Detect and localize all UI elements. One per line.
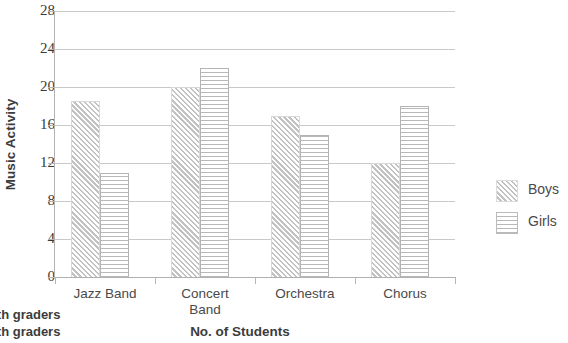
legend-label-boys: Boys [528,181,559,197]
y-tick-4 [48,239,55,240]
bar-group-jazz-band [71,11,129,277]
bar-concert-band-boys [171,87,200,277]
footnote-line-1: ixth graders [0,306,60,323]
x-category-concert-band-line2: Band [145,302,265,318]
bar-chart: Music Activity 28 24 20 16 12 8 4 0 [0,0,568,343]
y-tick-8 [48,201,55,202]
x-axis-title: No. of Students [150,324,330,339]
bar-chorus-boys [371,163,400,277]
x-category-chorus-line1: Chorus [345,286,465,302]
legend-swatch-boys-icon [496,180,518,202]
x-tick-0 [55,277,56,284]
bar-concert-band-girls [200,68,229,277]
bar-orchestra-boys [271,116,300,278]
legend-swatch-girls-icon [496,212,518,234]
legend-item-girls: Girls [496,210,566,242]
bar-chorus-girls [400,106,429,277]
y-tick-28 [48,11,55,12]
chart-legend: Boys Girls [496,178,566,242]
y-tick-12 [48,163,55,164]
y-tick-20 [48,87,55,88]
x-tick-1 [155,277,156,284]
bar-group-chorus [371,11,429,277]
footnote-block: ixth graders ixth graders [0,306,60,340]
bar-group-concert-band [171,11,229,277]
footnote-line-2: ixth graders [0,323,60,340]
x-category-chorus: Chorus [345,286,465,302]
bar-orchestra-girls [300,135,329,278]
legend-item-boys: Boys [496,178,566,210]
x-tick-3 [355,277,356,284]
legend-label-girls: Girls [528,213,557,229]
x-tick-2 [255,277,256,284]
bar-jazz-band-girls [100,173,129,278]
bar-group-orchestra [271,11,329,277]
x-tick-4 [455,277,456,284]
y-tick-24 [48,49,55,50]
bar-jazz-band-boys [71,101,100,277]
y-tick-0 [48,277,55,278]
y-tick-16 [48,125,55,126]
plot-area [55,11,455,277]
